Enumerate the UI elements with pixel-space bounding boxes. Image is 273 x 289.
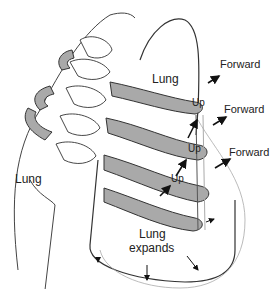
label-up-2: Up bbox=[188, 143, 201, 155]
label-lung-expands-line2: expands bbox=[129, 241, 174, 255]
label-up-1: Up bbox=[192, 97, 205, 109]
label-lung-left: Lung bbox=[15, 172, 42, 186]
label-forward-3: Forward bbox=[229, 146, 269, 158]
sternum bbox=[196, 115, 205, 230]
label-lung-top: Lung bbox=[152, 72, 179, 86]
label-forward-2: Forward bbox=[224, 103, 264, 115]
lung-expansion-diagram: Lung Lung Lung expands Up Up Up Forward … bbox=[0, 0, 273, 289]
label-up-3: Up bbox=[171, 173, 184, 185]
ribs bbox=[25, 50, 209, 231]
label-lung-expands-line1: Lung bbox=[139, 227, 166, 241]
label-forward-1: Forward bbox=[220, 58, 260, 70]
forward-arrows bbox=[208, 76, 230, 168]
